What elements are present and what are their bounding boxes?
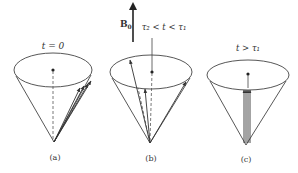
b0-field-arrow: [129, 2, 137, 42]
caption-a: (a): [49, 153, 60, 162]
b0-field-label: B0: [120, 19, 132, 30]
caption-b: (b): [145, 154, 156, 163]
precession-cones-diagram: t = 0 (a) B0 τ₂ < t < τ₁ (b) t > τ₁: [0, 0, 298, 173]
magnetization-vectors-dephased-vertical: [244, 90, 250, 143]
cone-axis-dashed: [150, 73, 152, 141]
condition-label-b: τ₂ < t < τ₁: [142, 22, 187, 32]
panel-c: t > τ₁ (c): [207, 43, 289, 164]
caption-c: (c): [241, 155, 252, 164]
panel-b: B0 τ₂ < t < τ₁ (b): [110, 2, 192, 163]
magnetization-vectors-in-phase: [54, 81, 91, 142]
condition-label-a: t = 0: [42, 41, 65, 51]
condition-label-c: t > τ₁: [236, 43, 260, 53]
panel-a: t = 0 (a): [14, 41, 92, 162]
